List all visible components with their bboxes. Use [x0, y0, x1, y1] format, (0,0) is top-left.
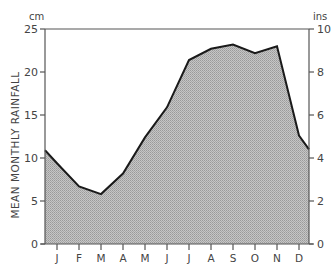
- right-tick-label: 6: [317, 109, 324, 122]
- right-tick-label: 8: [317, 66, 324, 79]
- rainfall-fill: [45, 45, 309, 245]
- left-tick-label: 20: [24, 66, 38, 79]
- right-unit-label: ins: [313, 11, 327, 22]
- left-tick-label: 5: [31, 195, 38, 208]
- month-label: D: [295, 252, 303, 264]
- rainfall-chart: 0510152025cm0246810insJFMAMJJASONDMEAN M…: [0, 0, 335, 271]
- month-label: M: [140, 252, 149, 264]
- month-label: S: [230, 252, 237, 264]
- month-label: J: [164, 252, 168, 264]
- month-label: M: [96, 252, 105, 264]
- y-axis-title: MEAN MONTHLY RAINFALL: [9, 71, 21, 218]
- rainfall-area: [45, 45, 309, 245]
- left-tick-label: 25: [24, 23, 38, 36]
- month-label: N: [273, 252, 281, 264]
- month-label: A: [119, 252, 127, 264]
- month-label: A: [207, 252, 215, 264]
- right-tick-label: 0: [317, 238, 324, 251]
- month-label: J: [186, 252, 190, 264]
- right-tick-label: 10: [317, 23, 331, 36]
- left-tick-label: 10: [24, 152, 38, 165]
- left-tick-label: 15: [24, 109, 38, 122]
- month-label: J: [54, 252, 58, 264]
- month-label: O: [251, 252, 259, 264]
- right-tick-label: 4: [317, 152, 324, 165]
- left-tick-label: 0: [31, 238, 38, 251]
- left-unit-label: cm: [29, 11, 44, 22]
- month-label: F: [76, 252, 82, 264]
- right-tick-label: 2: [317, 195, 324, 208]
